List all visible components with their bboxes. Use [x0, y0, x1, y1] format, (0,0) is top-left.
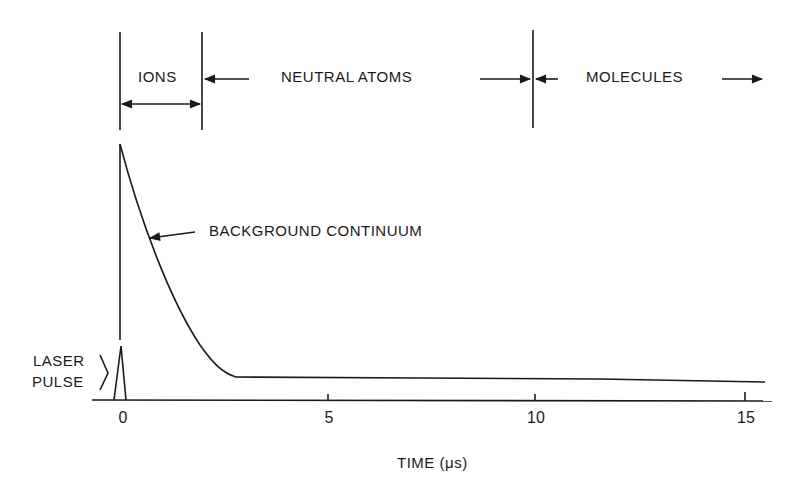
region-label-neutral-atoms: NEUTRAL ATOMS [281, 68, 412, 85]
laser-bracket [100, 355, 108, 390]
background-pointer-arrow [150, 232, 195, 238]
tick-label-10: 10 [527, 409, 545, 427]
x-axis [92, 400, 772, 401]
background-continuum-label: BACKGROUND CONTINUUM [209, 222, 422, 239]
background-continuum-curve [120, 144, 765, 382]
laser-label-line1: LASER [33, 352, 85, 369]
tick-label-0: 0 [119, 409, 128, 427]
laser-label-line2: PULSE [32, 373, 84, 390]
laser-pulse-peak [114, 346, 126, 400]
tick-label-5: 5 [325, 409, 334, 427]
region-label-ions: IONS [138, 68, 177, 85]
tick-label-15: 15 [737, 409, 755, 427]
region-label-molecules: MOLECULES [586, 68, 683, 85]
x-axis-label: TIME (μs) [397, 454, 468, 471]
